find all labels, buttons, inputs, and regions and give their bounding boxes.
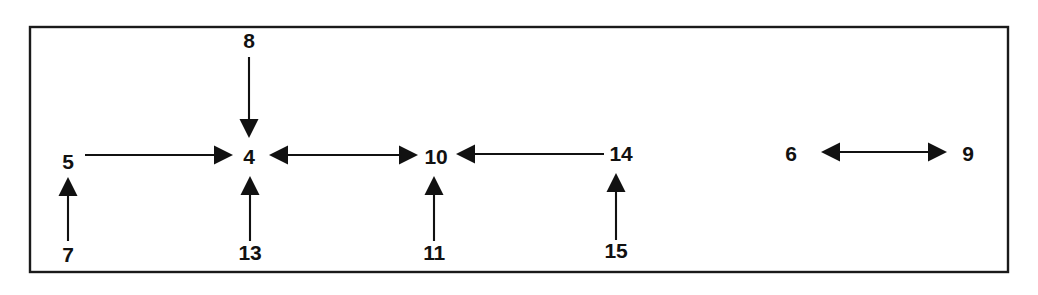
arrow-13-to-4-head-end [241, 176, 260, 195]
reference-numeral-6: 6 [785, 142, 796, 165]
diagram-svg: 8541014697131115 [0, 0, 1038, 295]
arrow-13-to-4 [241, 176, 260, 241]
arrow-6-to-9-double [821, 143, 947, 162]
arrow-14-to-10 [456, 145, 604, 164]
reference-numeral-11: 11 [423, 241, 445, 264]
arrow-14-to-10-head-end [456, 145, 475, 164]
reference-numeral-9: 9 [962, 142, 973, 165]
arrow-8-to-4 [240, 57, 259, 138]
arrow-5-to-4-head-end [214, 146, 233, 165]
arrow-5-to-4 [85, 146, 233, 165]
arrow-8-to-4-head-end [240, 119, 259, 138]
arrow-6-to-9-double-head-end [928, 143, 947, 162]
arrow-7-to-5 [59, 177, 78, 241]
arrows-group [59, 57, 948, 241]
arrow-11-to-10-head-end [425, 176, 444, 195]
reference-numeral-14: 14 [610, 142, 633, 165]
reference-numeral-4: 4 [243, 145, 255, 168]
reference-numeral-5: 5 [62, 150, 74, 173]
arrow-15-to-14 [607, 173, 626, 240]
patent-figure-canvas: 8541014697131115 [0, 0, 1038, 295]
reference-numeral-7: 7 [62, 243, 73, 266]
reference-numeral-15: 15 [605, 239, 628, 262]
reference-numeral-10: 10 [425, 145, 448, 168]
arrow-15-to-14-head-end [607, 173, 626, 192]
outer-border-rectangle [30, 27, 1008, 272]
reference-numeral-13: 13 [239, 241, 262, 264]
reference-numeral-8: 8 [243, 29, 255, 52]
arrow-4-to-10-double [269, 146, 418, 165]
arrow-4-to-10-double-head-end [399, 146, 418, 165]
arrow-7-to-5-head-end [59, 177, 78, 196]
arrow-11-to-10 [425, 176, 444, 241]
